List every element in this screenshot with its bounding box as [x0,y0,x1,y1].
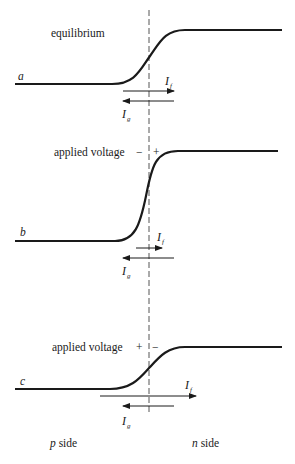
panel-c-letter: c [20,376,25,388]
current-if-a-label: If [165,75,171,88]
panel-b-polarity-left: − [136,147,143,159]
panel-a-letter: a [18,71,24,83]
panel-c-polarity-right: − [152,342,159,354]
current-ig-b-label: Ig [122,265,130,278]
junction-diagram [0,0,295,464]
current-ig-a-label: Ig [122,108,130,121]
current-ig-c-label: Ig [122,415,130,428]
panel-b-title: applied voltage [54,147,125,159]
panel-a-title: equilibrium [51,28,105,40]
band-curve-b [15,151,278,241]
panel-c-title: applied voltage [52,342,123,354]
current-if-b-label: If [157,231,163,244]
current-if-c-label: If [185,379,191,392]
n-side-label: n side [192,438,219,450]
p-side-label: p side [50,438,77,450]
panel-b-polarity-right: + [153,147,160,159]
panel-c-polarity-left: + [136,342,143,354]
panel-b-letter: b [20,227,26,239]
